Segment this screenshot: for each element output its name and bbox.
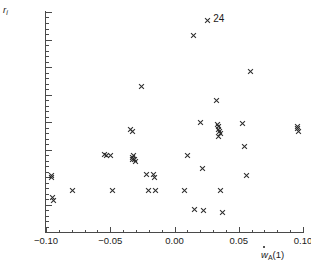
x-axis-minor-tick	[123, 230, 124, 233]
x-axis-tick	[110, 227, 111, 233]
data-point-marker	[107, 152, 114, 159]
x-axis-minor-tick	[213, 230, 214, 233]
x-axis-minor-tick	[162, 230, 163, 233]
y-axis-minor-tick	[46, 183, 49, 184]
x-axis-minor-tick	[252, 230, 253, 233]
data-point-marker	[204, 17, 211, 24]
y-axis-tick	[46, 40, 52, 41]
data-point-marker	[190, 32, 197, 39]
x-axis-tick	[175, 227, 176, 233]
data-point-marker	[219, 209, 226, 216]
point-annotation-label: 24	[213, 13, 224, 24]
data-point-marker	[132, 158, 139, 165]
y-axis-minor-tick	[46, 117, 49, 118]
y-axis-minor-tick	[46, 56, 49, 57]
y-axis-tick	[46, 205, 52, 206]
y-axis-minor-tick	[46, 188, 49, 189]
data-point-marker	[213, 97, 220, 104]
data-point-marker	[50, 197, 57, 204]
scatter-plot-figure: ri wA(1) −0.3−0.2−0.10.00.10.20.30.40.5−…	[0, 0, 311, 270]
x-axis-minor-tick	[149, 230, 150, 233]
y-axis-minor-tick	[46, 84, 49, 85]
y-axis-minor-tick	[46, 100, 49, 101]
x-axis-minor-tick	[187, 230, 188, 233]
x-axis-minor-tick	[136, 230, 137, 233]
y-axis-minor-tick	[46, 73, 49, 74]
data-point-marker	[295, 128, 302, 135]
x-axis-minor-tick	[264, 230, 265, 233]
data-point-marker	[152, 187, 159, 194]
y-axis-minor-tick	[46, 23, 49, 24]
y-axis-minor-tick	[46, 78, 49, 79]
x-axis-title-tail: (1)	[273, 249, 285, 260]
x-axis-minor-tick	[97, 230, 98, 233]
y-axis-minor-tick	[46, 221, 49, 222]
data-point-marker	[138, 83, 145, 90]
y-axis-minor-tick	[46, 45, 49, 46]
y-axis-minor-tick	[46, 133, 49, 134]
data-point-marker	[109, 187, 116, 194]
y-axis-minor-tick	[46, 29, 49, 30]
y-axis-minor-tick	[46, 128, 49, 129]
x-axis-title-symbol: w	[261, 249, 268, 260]
y-axis-tick	[46, 122, 52, 123]
data-point-marker	[181, 187, 188, 194]
y-axis-tick	[46, 67, 52, 68]
y-axis-tick	[46, 150, 52, 151]
data-point-marker	[241, 143, 248, 150]
y-axis-minor-tick	[46, 34, 49, 35]
y-axis-minor-tick	[46, 210, 49, 211]
y-axis-minor-tick	[46, 111, 49, 112]
y-axis-minor-tick	[46, 155, 49, 156]
data-point-marker	[191, 206, 198, 213]
y-axis-tick	[46, 95, 52, 96]
x-axis-title: wA(1)	[261, 249, 284, 261]
y-axis-minor-tick	[46, 62, 49, 63]
x-axis-minor-tick	[290, 230, 291, 233]
y-axis-minor-tick	[46, 17, 49, 18]
data-point-marker	[48, 174, 55, 181]
x-axis-tick	[303, 227, 304, 233]
x-axis-minor-tick	[277, 230, 278, 233]
data-point-marker	[199, 165, 206, 172]
y-axis-minor-tick	[46, 89, 49, 90]
y-axis-minor-tick	[46, 106, 49, 107]
y-axis-minor-tick	[46, 161, 49, 162]
x-axis-tick-label: 0.10	[294, 235, 311, 246]
x-axis-tick	[46, 227, 47, 233]
x-axis-minor-tick	[200, 230, 201, 233]
data-point-marker	[243, 172, 250, 179]
x-axis-tick-label: −0.05	[98, 235, 122, 246]
data-point-marker	[197, 119, 204, 126]
y-axis-minor-tick	[46, 51, 49, 52]
x-axis-tick	[239, 227, 240, 233]
x-axis-minor-tick	[85, 230, 86, 233]
data-point-marker	[143, 171, 150, 178]
y-axis-minor-tick	[46, 144, 49, 145]
data-point-marker	[129, 128, 136, 135]
data-point-marker	[145, 187, 152, 194]
y-axis-minor-tick	[46, 139, 49, 140]
y-axis-minor-tick	[46, 216, 49, 217]
x-axis-tick-label: 0.05	[230, 235, 249, 246]
data-point-marker	[247, 68, 254, 75]
y-axis-title: ri	[3, 4, 8, 16]
x-axis-tick-label: 0.00	[165, 235, 184, 246]
data-point-marker	[151, 174, 158, 181]
data-point-marker	[217, 187, 224, 194]
data-point-marker	[215, 133, 222, 140]
x-axis-minor-tick	[72, 230, 73, 233]
y-axis-tick	[46, 12, 52, 13]
y-axis-minor-tick	[46, 166, 49, 167]
data-point-marker	[69, 187, 76, 194]
x-axis-tick-label: −0.10	[34, 235, 58, 246]
x-axis-minor-tick	[59, 230, 60, 233]
x-axis-minor-tick	[226, 230, 227, 233]
y-axis-title-subscript: i	[6, 9, 8, 16]
data-point-marker	[239, 120, 246, 127]
data-point-marker	[200, 207, 207, 214]
data-point-marker	[184, 152, 191, 159]
